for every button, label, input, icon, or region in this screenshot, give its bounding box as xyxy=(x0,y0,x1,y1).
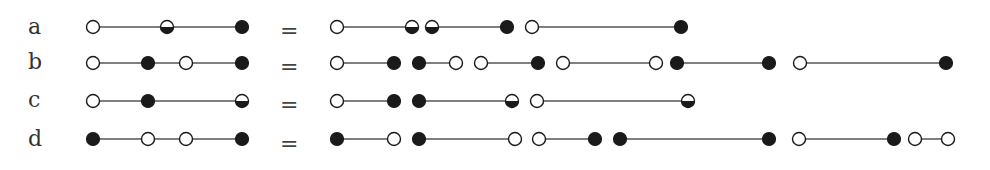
row-b-left-filled-node-icon xyxy=(142,57,155,70)
row-a-part-2-open-node-icon xyxy=(526,21,539,34)
row-c-part-2-half-node-icon xyxy=(682,95,695,108)
row-b-part-3-open-node-icon xyxy=(650,57,663,70)
row-d-left-filled-node-icon xyxy=(87,133,100,146)
row-b-part-5-filled-node-icon xyxy=(940,57,953,70)
row-b-left-open-node-icon xyxy=(180,57,193,70)
row-b-part-4-filled-node-icon xyxy=(763,57,776,70)
row-a-left-half-node-icon xyxy=(161,21,174,34)
row-c-part-0-filled-node-icon xyxy=(388,95,401,108)
row-c-part-1-filled-node-icon xyxy=(413,95,426,108)
row-b-left-open-node-icon xyxy=(87,57,100,70)
row-b-part-0-open-node-icon xyxy=(331,57,344,70)
row-d-part-2-filled-node-icon xyxy=(589,133,602,146)
row-b-part-1-filled-node-icon xyxy=(413,57,426,70)
row-a-part-0-half-node-icon xyxy=(406,21,419,34)
row-d-left-filled-node-icon xyxy=(236,133,249,146)
row-a-left-filled-node-icon xyxy=(236,21,249,34)
row-a-part-1-half-node-icon xyxy=(426,21,439,34)
row-a-part-2-filled-node-icon xyxy=(675,21,688,34)
row-d-part-4-filled-node-icon xyxy=(888,133,901,146)
row-b-left-filled-node-icon xyxy=(236,57,249,70)
row-b-part-2-open-node-icon xyxy=(475,57,488,70)
row-b-part-2-filled-node-icon xyxy=(532,57,545,70)
row-c-part-1-half-node-icon xyxy=(506,95,519,108)
row-d-part-0-open-node-icon xyxy=(388,133,401,146)
row-d-part-4-open-node-icon xyxy=(793,133,806,146)
row-b-part-3-open-node-icon xyxy=(557,57,570,70)
row-d-left-open-node-icon xyxy=(180,133,193,146)
row-c-left-half-node-icon xyxy=(236,95,249,108)
row-d-left-open-node-icon xyxy=(142,133,155,146)
row-d-part-0-filled-node-icon xyxy=(331,133,344,146)
row-d-part-5-open-node-icon xyxy=(909,133,922,146)
chain-graphics xyxy=(0,0,990,170)
row-b-part-0-filled-node-icon xyxy=(388,57,401,70)
row-c-part-0-open-node-icon xyxy=(331,95,344,108)
row-a-part-0-open-node-icon xyxy=(331,21,344,34)
row-b-part-1-open-node-icon xyxy=(450,57,463,70)
row-d-part-1-open-node-icon xyxy=(509,133,522,146)
row-a-left-open-node-icon xyxy=(87,21,100,34)
row-c-left-filled-node-icon xyxy=(142,95,155,108)
row-d-part-3-filled-node-icon xyxy=(614,133,627,146)
row-a-part-1-filled-node-icon xyxy=(501,21,514,34)
row-d-part-1-filled-node-icon xyxy=(413,133,426,146)
row-b-part-4-filled-node-icon xyxy=(671,57,684,70)
row-c-part-2-open-node-icon xyxy=(531,95,544,108)
row-c-left-open-node-icon xyxy=(87,95,100,108)
row-b-part-5-open-node-icon xyxy=(794,57,807,70)
row-d-part-5-open-node-icon xyxy=(942,133,955,146)
chain-diagram: a b c d = = = = xyxy=(0,0,990,170)
row-d-part-3-filled-node-icon xyxy=(763,133,776,146)
row-d-part-2-open-node-icon xyxy=(533,133,546,146)
